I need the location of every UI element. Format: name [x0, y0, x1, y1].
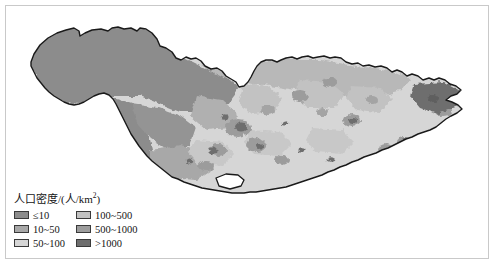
legend-item-500-1000[interactable]: 500~1000: [76, 223, 174, 236]
legend-label-le-10: ≤10: [33, 210, 49, 221]
legend-item-100-500[interactable]: 100~500: [76, 209, 174, 222]
legend-label-100-500: 100~500: [95, 210, 132, 221]
figure-root: 人口密度/(人/km2) ≤10 100~500 10~50 500~1000: [0, 0, 494, 264]
legend-title-text: 人口密度/(人/km: [14, 193, 93, 205]
legend: 人口密度/(人/km2) ≤10 100~500 10~50 500~1000: [14, 189, 174, 250]
legend-title-suffix: ): [97, 193, 101, 205]
legend-swatch-10-50: [14, 225, 29, 233]
legend-grid: ≤10 100~500 10~50 500~1000 50~100: [14, 209, 174, 250]
legend-swatch-500-1000: [76, 225, 91, 233]
legend-swatch-100-500: [76, 211, 91, 219]
legend-item-gt-1000[interactable]: >1000: [76, 237, 174, 250]
legend-label-500-1000: 500~1000: [95, 224, 137, 235]
legend-label-10-50: 10~50: [33, 224, 60, 235]
legend-swatch-le-10: [14, 211, 29, 219]
legend-title: 人口密度/(人/km2): [14, 189, 174, 206]
legend-item-50-100[interactable]: 50~100: [14, 237, 72, 250]
legend-item-10-50[interactable]: 10~50: [14, 223, 72, 236]
legend-swatch-gt-1000: [76, 239, 91, 247]
legend-label-50-100: 50~100: [33, 238, 65, 249]
legend-item-le-10[interactable]: ≤10: [14, 209, 72, 222]
legend-swatch-50-100: [14, 239, 29, 247]
legend-label-gt-1000: >1000: [95, 238, 122, 249]
map-enclave: [216, 174, 244, 189]
